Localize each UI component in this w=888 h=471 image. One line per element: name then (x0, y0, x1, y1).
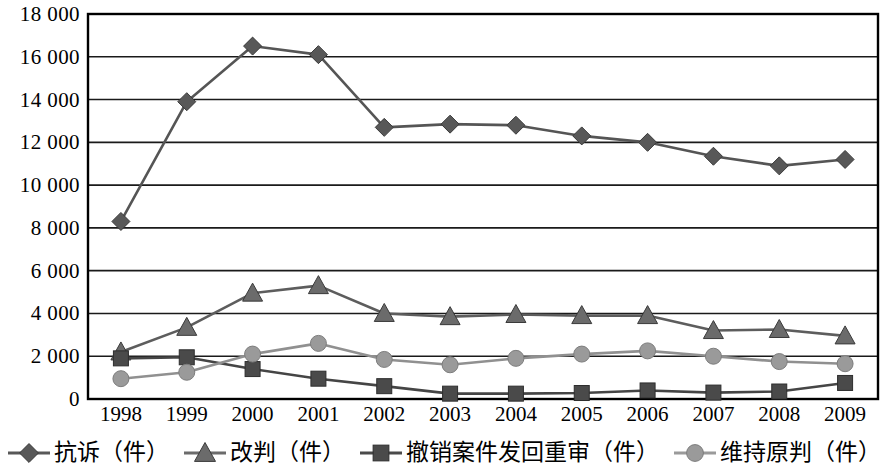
x-axis: 1998199920002001200220032004200520062007… (0, 402, 888, 432)
legend-item[interactable]: 维持原判（件） (673, 440, 881, 466)
circle-marker-icon (442, 357, 458, 373)
square-marker-icon (377, 379, 392, 394)
legend-item[interactable]: 改判（件） (183, 440, 345, 466)
square-marker-icon (443, 386, 458, 401)
plot-border (88, 14, 878, 399)
x-axis-tick-label: 2002 (363, 402, 405, 426)
circle-marker-icon (179, 364, 195, 380)
x-axis-tick-label: 1998 (100, 402, 142, 426)
x-axis-tick-label: 2001 (297, 402, 339, 426)
diamond-marker-icon (836, 150, 854, 168)
circle-marker-icon (376, 351, 392, 367)
x-axis-tick-label: 2005 (561, 402, 603, 426)
legend-label: 维持原判（件） (720, 440, 881, 466)
circle-marker-icon (508, 350, 524, 366)
circle-marker-icon (771, 354, 787, 370)
series-2 (111, 276, 855, 360)
circle-marker-icon (574, 346, 590, 362)
triangle-marker-icon (374, 303, 394, 321)
diamond-marker-icon (20, 443, 39, 462)
diamond-marker-icon (770, 157, 788, 175)
plot-area (0, 0, 888, 471)
legend-label: 抗诉（件） (54, 440, 169, 466)
series-1 (112, 37, 854, 230)
series-4 (113, 335, 853, 386)
square-marker-icon (179, 350, 194, 365)
series-line (121, 343, 845, 378)
square-marker-icon (113, 351, 128, 366)
triangle-marker-icon (177, 317, 197, 335)
diamond-marker-icon (639, 133, 657, 151)
series-line (121, 286, 845, 352)
chart-legend: 抗诉（件）改判（件）撤销案件发回重审（件）维持原判（件） (0, 434, 888, 471)
circle-marker-icon (837, 356, 853, 372)
diamond-marker-icon (704, 147, 722, 165)
square-marker-icon (245, 362, 260, 377)
x-axis-tick-label: 2007 (692, 402, 734, 426)
legend-label: 撤销案件发回重审（件） (406, 440, 659, 466)
x-axis-tick-label: 2003 (429, 402, 471, 426)
diamond-marker-icon (507, 116, 525, 134)
x-axis-tick-label: 2006 (627, 402, 669, 426)
x-axis-tick-label: 2009 (824, 402, 866, 426)
square-marker-icon (311, 371, 326, 386)
diamond-marker-icon (7, 441, 51, 465)
x-axis-tick-label: 2004 (495, 402, 537, 426)
legend-item[interactable]: 撤销案件发回重审（件） (359, 440, 659, 466)
legend-label: 改判（件） (230, 440, 345, 466)
triangle-marker-icon (308, 276, 328, 294)
x-axis-tick-label: 2008 (758, 402, 800, 426)
x-axis-tick-label: 1999 (166, 402, 208, 426)
circle-marker-icon (245, 346, 261, 362)
square-marker-icon (574, 386, 589, 401)
diamond-marker-icon (441, 115, 459, 133)
square-marker-icon (640, 383, 655, 398)
circle-marker-icon (640, 343, 656, 359)
circle-marker-icon (113, 371, 129, 387)
line-chart-figure: 02 0004 0006 0008 00010 00012 00014 0001… (0, 0, 888, 471)
series-line (121, 46, 845, 221)
legend-item[interactable]: 抗诉（件） (7, 440, 169, 466)
circle-marker-icon (310, 335, 326, 351)
x-axis-tick-label: 2000 (232, 402, 274, 426)
circle-marker-icon (673, 441, 717, 465)
triangle-marker-icon (183, 441, 227, 465)
square-marker-icon (838, 375, 853, 390)
square-marker-icon (373, 445, 389, 461)
square-marker-icon (508, 386, 523, 401)
square-marker-icon (359, 441, 403, 465)
circle-marker-icon (687, 444, 704, 461)
square-marker-icon (772, 384, 787, 399)
square-marker-icon (706, 385, 721, 400)
circle-marker-icon (705, 348, 721, 364)
